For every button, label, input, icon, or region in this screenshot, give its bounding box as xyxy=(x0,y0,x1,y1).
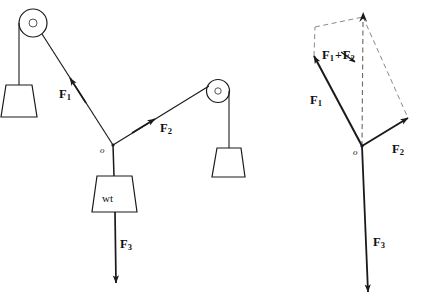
vector-f2-right xyxy=(362,118,408,146)
label-f3-left-base: F xyxy=(120,237,128,251)
label-origin-right: o xyxy=(353,148,358,157)
label-f2-left-base: F xyxy=(160,121,168,135)
label-f2-left-sub: 2 xyxy=(168,126,172,136)
label-resultant-f2-sub: 2 xyxy=(350,53,354,63)
left-pulley xyxy=(19,9,47,37)
diagram-canvas xyxy=(0,0,427,307)
vector-f3-left xyxy=(115,212,116,283)
label-f1-right: F1 xyxy=(310,94,322,107)
label-f2-right-base: F xyxy=(392,142,400,156)
cord-to-weight xyxy=(92,145,137,212)
label-f2-right-sub: 2 xyxy=(400,147,404,157)
label-f2-left: F2 xyxy=(160,122,172,135)
cord-f2 xyxy=(113,86,209,145)
junction-point-left xyxy=(111,143,114,146)
label-f3-right-sub: 3 xyxy=(381,240,385,250)
cord-f1 xyxy=(42,34,113,145)
parallelogram-dashed-sides xyxy=(314,17,408,118)
label-f3-left-sub: 3 xyxy=(128,242,132,252)
label-f1-left: F1 xyxy=(59,88,71,101)
label-origin-left: o xyxy=(100,146,105,155)
label-f1-left-sub: 1 xyxy=(67,92,71,102)
label-f3-right-base: F xyxy=(373,235,381,249)
label-weight-box: wt xyxy=(102,193,113,204)
vector-f3-right xyxy=(362,146,368,292)
label-resultant-plus: + xyxy=(334,48,343,62)
label-resultant: F1+F2 xyxy=(322,49,355,62)
right-hanging-weight xyxy=(212,91,245,177)
label-f3-right: F3 xyxy=(373,236,385,249)
origin-point-right xyxy=(360,144,363,147)
label-resultant-f1-base: F xyxy=(322,48,330,62)
label-f2-right: F2 xyxy=(392,143,404,156)
label-f1-right-base: F xyxy=(310,93,318,107)
label-f1-right-sub: 1 xyxy=(318,98,322,108)
right-pulley xyxy=(207,80,230,103)
label-f3-left: F3 xyxy=(120,238,132,251)
resultant-diagonal-dashed xyxy=(359,12,367,146)
label-f1-left-base: F xyxy=(59,87,67,101)
physics-force-diagram: F1 F2 F3 o wt F1 F2 F3 o F1+F2 xyxy=(0,0,427,307)
